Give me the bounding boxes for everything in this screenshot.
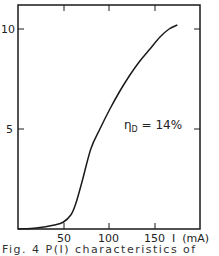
figure-caption: Fig. 4 P(I) characteristics of — [2, 243, 197, 256]
plot-frame — [18, 5, 200, 229]
y-tick-label-10: 10 — [1, 23, 15, 36]
efficiency-annotation: ηD = 14% — [124, 118, 182, 134]
eta-symbol: η — [124, 118, 132, 132]
eta-value: = 14% — [138, 118, 182, 132]
y-tick-label-5: 5 — [6, 123, 13, 136]
